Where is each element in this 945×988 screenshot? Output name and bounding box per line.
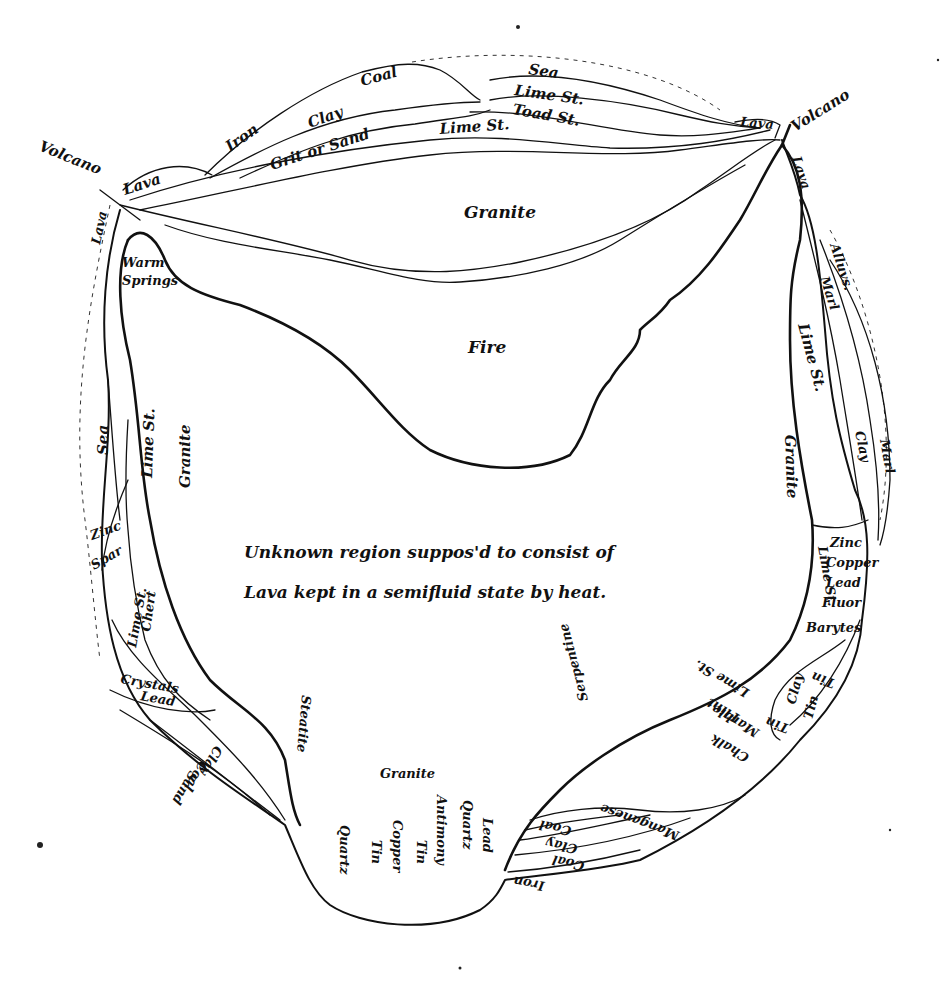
label-mineral-antimony: Antimony bbox=[434, 793, 449, 866]
label-clay-2: Clay bbox=[783, 670, 806, 705]
label-serpentine: Serpentine bbox=[556, 622, 591, 703]
earth-strata-diagram: Volcano Volcano Lava Iron Clay Coal Grit… bbox=[0, 0, 945, 988]
label-chalk: Chalk bbox=[707, 731, 751, 765]
label-clay-right: Clay bbox=[852, 430, 873, 465]
label-sea-left: Sea bbox=[94, 425, 112, 455]
label-fire: Fire bbox=[467, 337, 506, 357]
volcano-left-label: Volcano bbox=[37, 137, 105, 178]
label-manganese: Manganese bbox=[598, 801, 682, 844]
label-lava-left: Lava bbox=[88, 210, 110, 247]
label-mineral-copper: Copper bbox=[390, 820, 405, 873]
label-fluor: Fluor bbox=[821, 595, 862, 610]
label-zinc-left: Zinc bbox=[87, 518, 123, 543]
label-granite-right: Granite bbox=[781, 435, 801, 499]
label-lava-top-right: Lava bbox=[739, 114, 775, 132]
label-mineral-tin-1: Tin bbox=[414, 840, 429, 864]
label-steatite: Steatite bbox=[294, 695, 314, 753]
label-lava-right: Lava bbox=[789, 153, 814, 190]
label-granite-left: Granite bbox=[176, 424, 194, 488]
label-clay-top: Clay bbox=[305, 102, 346, 132]
label-lime-st-left: Lime St. bbox=[138, 408, 158, 479]
label-coal-small: Coal bbox=[538, 817, 573, 838]
label-warm-springs-1: Warm bbox=[122, 255, 165, 270]
label-upper-granite: Granite bbox=[464, 202, 536, 222]
label-marl-outer: Marl bbox=[877, 437, 898, 475]
label-clay-bottom: Clay bbox=[544, 835, 579, 856]
inner-cavity-outline bbox=[120, 145, 813, 870]
label-coal-bottom: Coal bbox=[551, 852, 586, 873]
label-lead-right: Lead bbox=[825, 575, 861, 590]
granite-fire-boundary bbox=[165, 165, 745, 282]
label-mineral-quartz-2: Quartz bbox=[337, 825, 352, 875]
label-tin-2: Tin bbox=[800, 694, 821, 721]
label-sea-top: Sea bbox=[527, 60, 559, 82]
label-lime-st-bottom: Lime St. bbox=[692, 657, 753, 701]
label-mineral-quartz-1: Quartz bbox=[460, 800, 475, 850]
label-barytes: Barytes bbox=[805, 620, 862, 635]
label-iron-top: Iron bbox=[221, 120, 262, 156]
label-lime-st-top-2: Lime St. bbox=[438, 115, 510, 138]
label-copper-right: Copper bbox=[826, 555, 879, 570]
center-text-line-1: Unknown region suppos'd to consist of bbox=[244, 542, 617, 562]
center-text-line-2: Lava kept in a semifluid state by heat. bbox=[243, 582, 606, 602]
label-tin-3: Tin bbox=[763, 714, 791, 736]
label-tin-1: Tin bbox=[809, 669, 837, 691]
label-lava-top-left: Lava bbox=[120, 170, 163, 199]
label-warm-springs-2: Springs bbox=[122, 273, 179, 288]
label-spar-left: Spar bbox=[88, 542, 126, 572]
label-mineral-tin-2: Tin bbox=[369, 840, 384, 864]
crust-outline bbox=[102, 140, 868, 925]
label-coal-top: Coal bbox=[358, 63, 399, 90]
label-iron-bottom: Iron bbox=[512, 874, 546, 894]
label-bottom-granite: Granite bbox=[380, 766, 435, 781]
volcano-right-label: Volcano bbox=[788, 85, 853, 135]
label-zinc-right: Zinc bbox=[829, 535, 862, 550]
label-mineral-lead: Lead bbox=[480, 817, 495, 853]
